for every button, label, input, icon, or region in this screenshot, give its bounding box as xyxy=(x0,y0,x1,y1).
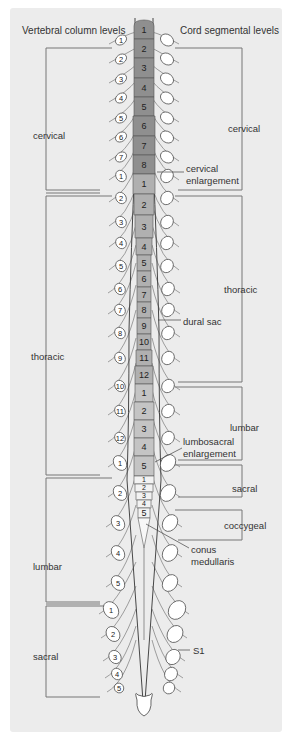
svg-text:4: 4 xyxy=(119,94,123,103)
label-cervical-enlargement-1: cervical xyxy=(186,163,218,174)
svg-text:6: 6 xyxy=(119,133,123,142)
svg-text:2: 2 xyxy=(141,406,146,416)
svg-text:4: 4 xyxy=(141,242,146,252)
svg-text:4: 4 xyxy=(141,442,146,452)
svg-text:5: 5 xyxy=(119,114,123,123)
svg-text:1: 1 xyxy=(141,25,146,35)
spinal-cord: 123456781234567891011121234512345 xyxy=(127,18,161,715)
svg-text:1: 1 xyxy=(118,459,122,468)
svg-text:2: 2 xyxy=(142,484,146,491)
svg-text:1: 1 xyxy=(119,172,123,181)
svg-text:4: 4 xyxy=(142,500,146,507)
svg-text:3: 3 xyxy=(141,424,146,434)
svg-text:2: 2 xyxy=(119,194,123,203)
svg-text:7: 7 xyxy=(141,141,146,151)
svg-text:3: 3 xyxy=(142,492,146,499)
svg-text:1: 1 xyxy=(141,388,146,398)
header-cord-levels: Cord segmental levels xyxy=(180,25,279,36)
svg-text:5: 5 xyxy=(141,102,146,112)
svg-text:1: 1 xyxy=(109,606,113,615)
svg-text:1: 1 xyxy=(119,36,123,45)
svg-text:1: 1 xyxy=(142,476,146,483)
svg-text:12: 12 xyxy=(116,434,124,443)
svg-text:10: 10 xyxy=(139,337,149,347)
svg-text:7: 7 xyxy=(119,153,123,162)
left-label-thoracic: thoracic xyxy=(31,351,64,362)
label-conus-medullaris-1: conus xyxy=(191,544,216,555)
right-label-lumbar: lumbar xyxy=(230,422,259,433)
svg-text:10: 10 xyxy=(116,382,124,391)
svg-text:8: 8 xyxy=(141,160,146,170)
svg-text:6: 6 xyxy=(141,274,146,284)
svg-text:2: 2 xyxy=(118,489,122,498)
label-s1: S1 xyxy=(193,645,205,656)
left-label-lumbar: lumbar xyxy=(33,561,62,572)
right-label-thoracic: thoracic xyxy=(224,284,257,295)
svg-text:12: 12 xyxy=(139,370,149,380)
right-label-coccygeal: coccygeal xyxy=(224,520,266,531)
svg-text:4: 4 xyxy=(116,549,120,558)
svg-text:5: 5 xyxy=(141,508,146,518)
svg-text:11: 11 xyxy=(139,353,148,363)
svg-text:5: 5 xyxy=(117,684,121,693)
svg-text:5: 5 xyxy=(141,258,146,268)
svg-text:3: 3 xyxy=(116,519,120,528)
left-label-cervical: cervical xyxy=(33,130,65,141)
svg-text:3: 3 xyxy=(141,222,146,232)
svg-text:3: 3 xyxy=(113,653,117,662)
svg-text:6: 6 xyxy=(141,121,146,131)
svg-text:2: 2 xyxy=(141,200,146,210)
svg-text:2: 2 xyxy=(119,55,123,64)
svg-text:9: 9 xyxy=(118,354,122,363)
svg-text:3: 3 xyxy=(141,63,146,73)
label-lumbosacral-enlargement-2: enlargement xyxy=(183,448,236,459)
svg-text:5: 5 xyxy=(119,262,123,271)
svg-text:6: 6 xyxy=(118,285,122,294)
svg-text:9: 9 xyxy=(141,321,146,331)
svg-text:8: 8 xyxy=(118,329,122,338)
svg-text:4: 4 xyxy=(141,83,146,93)
svg-text:5: 5 xyxy=(141,461,146,471)
svg-text:7: 7 xyxy=(141,290,146,300)
right-label-sacral: sacral xyxy=(232,483,257,494)
svg-text:4: 4 xyxy=(115,670,119,679)
svg-text:3: 3 xyxy=(119,75,123,84)
svg-text:5: 5 xyxy=(116,579,120,588)
label-conus-medullaris-2: medullaris xyxy=(191,556,234,567)
svg-text:2: 2 xyxy=(111,630,115,639)
svg-text:2: 2 xyxy=(141,44,146,54)
svg-text:8: 8 xyxy=(141,305,146,315)
svg-text:4: 4 xyxy=(119,239,123,248)
label-cervical-enlargement-2: enlargement xyxy=(186,175,239,186)
label-lumbosacral-enlargement-1: lumbosacral xyxy=(183,436,234,447)
spinal-cord-diagram: 123456781234567891011121234512345 123456… xyxy=(0,0,287,741)
label-dural-sac: dural sac xyxy=(183,316,222,327)
right-label-cervical: cervical xyxy=(228,123,260,134)
left-label-sacral: sacral xyxy=(33,651,58,662)
header-vertebral-levels: Vertebral column levels xyxy=(22,25,125,36)
svg-text:11: 11 xyxy=(116,407,124,416)
svg-text:3: 3 xyxy=(119,218,123,227)
svg-text:1: 1 xyxy=(141,179,146,189)
svg-text:7: 7 xyxy=(118,306,122,315)
